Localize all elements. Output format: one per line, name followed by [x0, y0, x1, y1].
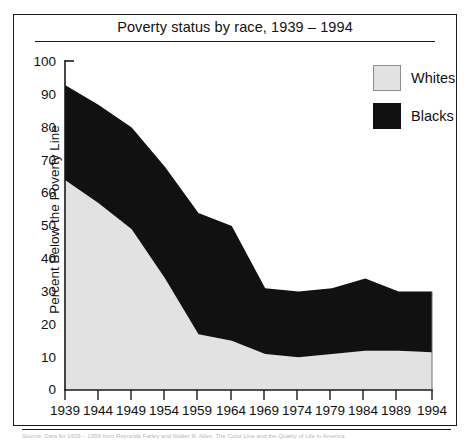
legend-entry-whites: Whites [373, 65, 455, 91]
legend-swatch-blacks-icon [373, 103, 401, 129]
x-tick-label: 1994 [410, 403, 454, 418]
legend-label-blacks: Blacks [411, 108, 454, 124]
chart-figure: Poverty status by race, 1939 – 1994 Perc… [0, 0, 473, 444]
legend-entry-blacks: Blacks [373, 103, 454, 129]
caption-divider [22, 429, 451, 430]
source-caption: Source: Data for 1939 – 1959 from Reynol… [22, 433, 462, 439]
legend-swatch-whites-icon [373, 65, 401, 91]
x-axis-ticks [65, 390, 432, 400]
legend-label-whites: Whites [411, 70, 455, 86]
